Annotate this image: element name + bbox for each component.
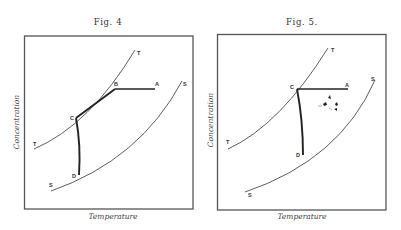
figure-5-label-s-upper: S xyxy=(371,76,375,82)
figure-4-label-s-lower: S xyxy=(49,182,53,188)
figure-5-point-d: D xyxy=(296,152,300,158)
figure-5-point-a: A xyxy=(345,82,349,88)
figure-5-x-axis-label: Temperature xyxy=(277,212,327,221)
figure-5-title: Fig. 5. xyxy=(286,17,318,27)
figure-4-label-t-upper: T xyxy=(137,50,141,56)
figure-4-point-d: D xyxy=(72,173,76,179)
figure-4-title: Fig. 4 xyxy=(94,17,122,27)
ink-smudge xyxy=(318,95,338,111)
figure-4-s-curve xyxy=(51,81,182,191)
figure-4-label-s-upper: S xyxy=(183,81,187,87)
figure-5-label-t-lower: T xyxy=(226,139,230,145)
figure-5-point-c: C xyxy=(290,84,294,90)
figure-5-y-axis-label: Concentration xyxy=(206,93,215,148)
figure-4-x-axis-label: Temperature xyxy=(88,212,138,221)
figure-4-point-b: B xyxy=(114,81,118,87)
figure-5-line-cd xyxy=(297,89,303,155)
figure-4-point-a: A xyxy=(155,81,159,87)
figure-4-line-cd xyxy=(76,118,80,175)
figure-4-label-t-lower: T xyxy=(33,141,37,147)
diagram-canvas: Fig. 4 T T S S B A C D Temperature Conce… xyxy=(0,0,401,230)
figure-5: Fig. 5. T T S S C A D Temperature Concen… xyxy=(206,17,386,221)
figure-4-point-c: C xyxy=(70,115,74,121)
figure-5-label-s-lower: S xyxy=(248,192,252,198)
figure-5-s-curve xyxy=(245,80,375,192)
figure-4: Fig. 4 T T S S B A C D Temperature Conce… xyxy=(12,17,193,221)
figure-4-t-curve xyxy=(34,50,135,149)
figure-5-label-t-upper: T xyxy=(331,47,335,53)
figure-5-t-curve xyxy=(228,48,328,149)
figure-4-y-axis-label: Concentration xyxy=(12,95,21,150)
figure-4-line-cb xyxy=(76,89,115,118)
